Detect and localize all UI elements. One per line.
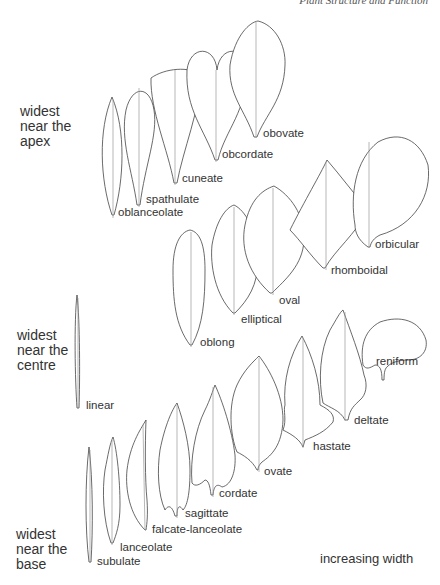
label-oblanceolate: oblanceolate xyxy=(118,206,183,218)
group-label-centre-line-1: widest xyxy=(17,328,68,343)
label-sagittate: sagittate xyxy=(185,507,228,519)
label-lanceolate: lanceolate xyxy=(120,541,172,553)
label-cordate: cordate xyxy=(219,487,257,499)
label-obcordate: obcordate xyxy=(222,148,273,160)
group-label-base: widest near the base xyxy=(16,527,67,572)
label-hastate: hastate xyxy=(313,440,351,452)
leaf-cordate xyxy=(192,385,236,497)
label-oval: oval xyxy=(279,294,300,306)
leaf-falcate-lanceolate xyxy=(127,420,148,530)
leaf-lanceolate xyxy=(103,437,120,545)
label-cuneate: cuneate xyxy=(182,172,223,184)
group-label-apex-line-3: apex xyxy=(20,134,71,149)
leaf-ovate xyxy=(231,356,283,472)
label-obovate: obovate xyxy=(263,127,304,139)
label-orbicular: orbicular xyxy=(375,238,419,250)
group-label-apex-line-1: widest xyxy=(20,104,71,119)
leaf-orbicular xyxy=(353,137,428,248)
label-falcate-lanceolate: falcate-lanceolate xyxy=(152,523,242,535)
group-label-centre: widest near the centre xyxy=(17,328,68,373)
leaf-reniform xyxy=(362,319,426,380)
leaf-sagittate xyxy=(158,403,190,518)
group-label-base-line-2: near the xyxy=(16,542,67,557)
label-linear: linear xyxy=(86,399,114,411)
group-label-centre-line-2: near the xyxy=(17,343,68,358)
group-label-apex-line-2: near the xyxy=(20,119,71,134)
group-label-apex: widest near the apex xyxy=(20,104,71,149)
label-rhomboidal: rhomboidal xyxy=(331,264,388,276)
label-oblong: oblong xyxy=(200,336,235,348)
label-reniform: reniform xyxy=(376,355,418,367)
leaf-linear xyxy=(75,295,79,408)
leaf-oblong xyxy=(173,230,205,347)
group-label-centre-line-3: centre xyxy=(17,358,68,373)
axis-note-increasing-width: increasing width xyxy=(320,551,413,566)
leaf-obovate xyxy=(230,21,285,138)
label-deltate: deltate xyxy=(354,414,389,426)
leaf-oblanceolate xyxy=(102,97,122,218)
leaf-spathulate xyxy=(124,88,154,207)
label-elliptical: elliptical xyxy=(241,313,282,325)
label-subulate: subulate xyxy=(97,555,140,567)
group-label-base-line-3: base xyxy=(16,557,67,572)
group-label-base-line-1: widest xyxy=(16,527,67,542)
leaf-deltate xyxy=(320,310,366,421)
label-spathulate: spathulate xyxy=(146,193,199,205)
leaf-subulate xyxy=(86,447,92,563)
label-ovate: ovate xyxy=(264,465,292,477)
